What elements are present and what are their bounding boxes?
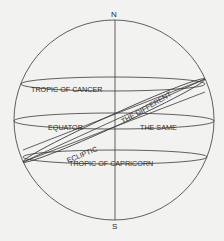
equator-label: EQUATOR: [48, 123, 83, 132]
tropic-of-capricorn-label: TROPIC OF CAPRICORN: [69, 159, 153, 168]
tropic-of-cancer-label: TROPIC OF CANCER: [31, 85, 102, 94]
celestial-sphere-diagram: N S TROPIC OF CANCER EQUATOR THE SAME EC…: [0, 0, 224, 241]
south-label: S: [112, 222, 117, 231]
celestial-sphere-outline: [14, 20, 214, 220]
north-label: N: [111, 10, 117, 19]
the-same-label: THE SAME: [140, 123, 177, 132]
